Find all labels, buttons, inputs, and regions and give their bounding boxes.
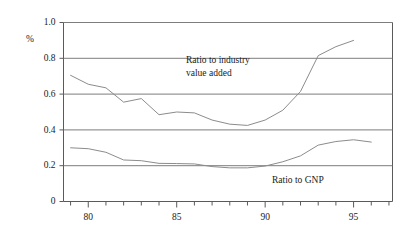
plot-frame [64,23,393,202]
x-axis-ticks [71,202,389,208]
y-tick-label-0.4: 0.4 [44,125,56,135]
chart-container: 00.20.40.60.81.0 80859095 % Ratio to ind… [0,0,401,234]
annotation-industry-line1: Ratio to industry [186,55,250,65]
series-line-ratio-to-gnp [71,140,372,168]
x-tick-label-95: 95 [349,212,359,222]
y-axis-unit-label: % [26,34,34,44]
annotation-industry-line2: value added [186,68,232,78]
x-tick-label-80: 80 [84,212,94,222]
x-axis-labels: 80859095 [84,212,359,222]
y-tick-label-0.8: 0.8 [44,53,56,63]
series-line-ratio-to-industry-value-added [71,40,354,125]
y-tick-label-0.6: 0.6 [44,89,56,99]
line-chart: 00.20.40.60.81.0 80859095 % Ratio to ind… [0,0,401,234]
y-tick-label-1: 1.0 [44,17,56,27]
y-axis-ticks: 00.20.40.60.81.0 [44,17,64,206]
annotation-gnp-line1: Ratio to GNP [272,175,324,185]
y-tick-label-0: 0 [51,196,56,206]
x-tick-label-85: 85 [172,212,182,222]
y-tick-label-0.2: 0.2 [44,160,56,170]
x-tick-label-90: 90 [260,212,270,222]
